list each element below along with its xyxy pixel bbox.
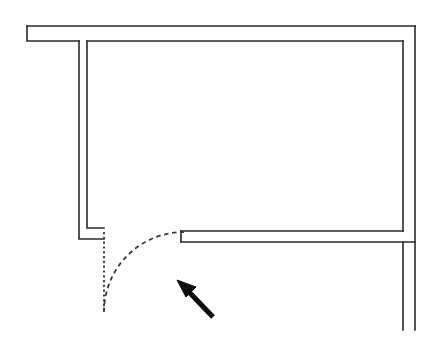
floor-plan-canvas (0, 0, 443, 341)
floor-plan-figure (0, 0, 443, 341)
figure-background (0, 0, 443, 341)
